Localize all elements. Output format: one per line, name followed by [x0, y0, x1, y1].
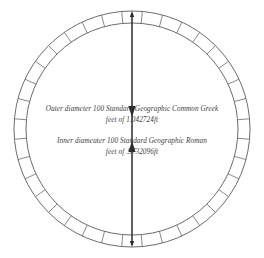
ring-segment-divider — [234, 98, 246, 101]
ring-segment-divider — [35, 190, 45, 197]
ring-segment-divider — [193, 32, 200, 42]
ring-segment-divider — [122, 11, 123, 23]
ring-segment-divider — [101, 231, 104, 243]
ring-segment-divider — [234, 156, 246, 159]
ring-segment-divider — [82, 22, 87, 33]
arrowhead-bottom-cap-icon — [130, 241, 134, 247]
arrowhead-down-icon — [128, 106, 135, 117]
ring-segment-divider — [64, 216, 71, 226]
ring-segment-divider — [14, 119, 26, 120]
ring-segment-divider — [159, 231, 162, 243]
diameter-dimension — [128, 11, 135, 247]
ring-segment-divider — [193, 216, 200, 226]
ring-segment-divider — [177, 225, 182, 236]
ring-diagram-svg — [0, 0, 264, 258]
ring-segment-divider — [49, 204, 57, 212]
ring-segment-divider — [18, 98, 30, 101]
ring-segment-divider — [49, 46, 57, 54]
ring-segment-divider — [25, 79, 36, 84]
ring-segment-divider — [82, 225, 87, 236]
ring-segment-divider — [219, 61, 229, 68]
ring-segment-divider — [159, 15, 162, 27]
ring-segment-divider — [228, 174, 239, 179]
ring-segment-divider — [238, 119, 250, 120]
ring-segment-divider — [219, 190, 229, 197]
diagram-canvas: Outer diameter 100 Standard Geographic C… — [0, 0, 264, 258]
ring-segment-divider — [228, 79, 239, 84]
ring-segment-divider — [141, 11, 142, 23]
ring-segment-divider — [35, 61, 45, 68]
ring-segment-divider — [207, 204, 215, 212]
ring-segment-divider — [14, 138, 26, 139]
ring-segment-divider — [141, 235, 142, 247]
arrowhead-top-cap-icon — [130, 11, 134, 17]
ring-segment-divider — [101, 15, 104, 27]
arrowhead-up-icon — [128, 141, 135, 152]
ring-segment-divider — [238, 138, 250, 139]
ring-segment-divider — [207, 46, 215, 54]
ring-segment-divider — [177, 22, 182, 33]
ring-segment-divider — [64, 32, 71, 42]
ring-segment-divider — [122, 235, 123, 247]
ring-segment-divider — [18, 156, 30, 159]
ring-segment-divider — [25, 174, 36, 179]
